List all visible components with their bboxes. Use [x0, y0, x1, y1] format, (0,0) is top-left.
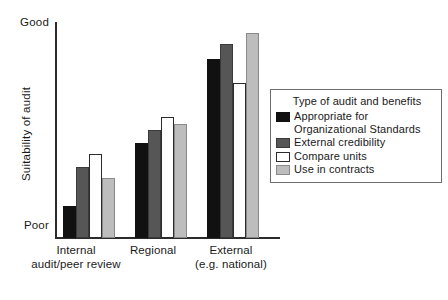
bar-regional-appropriate	[135, 143, 148, 238]
bar-external-use-in-contracts	[246, 33, 259, 238]
white-swatch-icon	[276, 152, 290, 162]
bar-external-external-credibility	[220, 44, 233, 238]
bar-chart-figure: Good Poor Suitability of audit Internal …	[0, 0, 448, 300]
legend-item-label: Use in contracts	[294, 163, 374, 176]
y-axis-tick-good: Good	[3, 16, 49, 28]
legend-item-label: Appropriate for Organizational Standards	[294, 110, 421, 135]
bar-group-internal	[63, 22, 119, 238]
y-axis-tick-poor: Poor	[3, 219, 49, 231]
bar-group-regional	[135, 22, 191, 238]
bar-regional-use-in-contracts	[174, 124, 187, 239]
dark-gray-swatch-icon	[276, 138, 290, 148]
legend-item-label: External credibility	[294, 136, 385, 149]
x-axis-label-external: External (e.g. national)	[178, 243, 284, 271]
light-gray-swatch-icon	[276, 165, 290, 175]
bar-external-appropriate	[207, 59, 220, 238]
legend-item-external-credibility: External credibility	[276, 136, 436, 149]
legend-item-compare-units: Compare units	[276, 150, 436, 163]
legend-item-use-in-contracts: Use in contracts	[276, 163, 436, 176]
bar-internal-compare-units	[89, 154, 102, 238]
legend: Type of audit and benefits Appropriate f…	[270, 89, 442, 183]
legend-item-label: Compare units	[294, 150, 367, 163]
legend-item-appropriate: Appropriate for Organizational Standards	[276, 110, 436, 135]
bar-external-compare-units	[233, 83, 246, 239]
bar-internal-use-in-contracts	[102, 178, 115, 239]
black-swatch-icon	[276, 112, 290, 122]
bar-internal-appropriate	[63, 206, 76, 238]
bar-internal-external-credibility	[76, 167, 89, 238]
legend-title: Type of audit and benefits	[276, 94, 436, 110]
bar-regional-compare-units	[161, 117, 174, 238]
bar-group-external	[207, 22, 263, 238]
y-axis-title: Suitability of audit	[20, 59, 32, 209]
bar-regional-external-credibility	[148, 130, 161, 238]
plot-area	[55, 22, 280, 238]
